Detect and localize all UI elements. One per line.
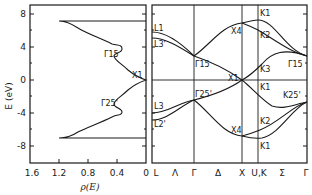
label-g25p: Γ25' xyxy=(195,90,212,99)
band-panel: L1 L3' Γ15 X4 K1 K2 K3 X1 K1 Γ15 Γ25' L3… xyxy=(152,5,309,178)
dos-tick-1.6: 1.6 xyxy=(25,168,40,178)
k-label-Delta: Δ xyxy=(215,168,222,178)
label-X4-lower: X4 xyxy=(231,126,242,135)
dos-panel: Γ15 X1 Γ25' 1.6 1.2 0.8 0.4 0 ρ(E) xyxy=(25,5,149,192)
label-L2p: L2' xyxy=(154,120,166,129)
dos-tick-0.4: 0.4 xyxy=(110,168,125,178)
dos-frame xyxy=(30,5,146,163)
label-L1: L1 xyxy=(154,24,164,33)
dos-annotations: Γ15 X1 Γ25' xyxy=(101,50,143,108)
y-tick-minus8: -8 xyxy=(17,141,26,151)
y-tick-minus4: -4 xyxy=(17,108,26,118)
band-structure-figure: E (eV) 8 4 0 -4 -8 xyxy=(0,0,312,195)
k-label-Gamma2: Γ xyxy=(303,168,308,178)
dos-label-x1: X1 xyxy=(132,71,143,80)
k-label-Gamma1: Γ xyxy=(191,168,196,178)
label-L3p: L3' xyxy=(154,40,166,49)
y-axis-label: E (eV) xyxy=(4,82,14,109)
dos-label-gamma15: Γ15 xyxy=(104,50,119,59)
k-label-UK: U,K xyxy=(251,168,267,178)
k-label-L: L xyxy=(153,168,158,178)
y-tick-0: 0 xyxy=(20,75,26,85)
band-frame xyxy=(152,5,307,163)
label-g15-right: Γ15 xyxy=(288,60,303,69)
dos-tick-0.8: 0.8 xyxy=(81,168,96,178)
label-K2-lower: K2 xyxy=(260,117,270,126)
dos-label-gamma25: Γ25' xyxy=(101,99,118,108)
k-label-Lambda: Λ xyxy=(172,168,179,178)
y-tick-4: 4 xyxy=(20,42,26,52)
label-K1-top: K1 xyxy=(260,9,270,18)
dos-tick-0: 0 xyxy=(143,168,149,178)
label-g15-left: Γ15 xyxy=(195,60,210,69)
label-L3: L3 xyxy=(154,102,164,111)
label-X1: X1 xyxy=(228,74,239,83)
label-K2-upper: K2 xyxy=(260,31,270,40)
y-tick-labels: 8 4 0 -4 -8 xyxy=(17,9,26,151)
k-point-labels: L Λ Γ Δ X U,K Σ Γ xyxy=(153,168,308,178)
label-K3: K3 xyxy=(260,65,270,74)
y-tick-8: 8 xyxy=(20,9,26,19)
label-K1-mid: K1 xyxy=(260,83,270,92)
label-X4-upper: X4 xyxy=(231,27,242,36)
dos-y-ticks xyxy=(30,14,146,163)
band-x4-k1-upper xyxy=(242,20,307,56)
dos-x-axis-label: ρ(E) xyxy=(80,182,100,192)
k-label-Sigma: Σ xyxy=(279,168,285,178)
label-K25p: K25' xyxy=(283,91,301,100)
k-label-X: X xyxy=(239,168,245,178)
label-K1-bottom: K1 xyxy=(260,142,270,151)
symmetry-lines xyxy=(152,5,307,163)
dos-tick-1.2: 1.2 xyxy=(52,168,66,178)
dos-x-tick-labels: 1.6 1.2 0.8 0.4 0 xyxy=(25,168,149,178)
